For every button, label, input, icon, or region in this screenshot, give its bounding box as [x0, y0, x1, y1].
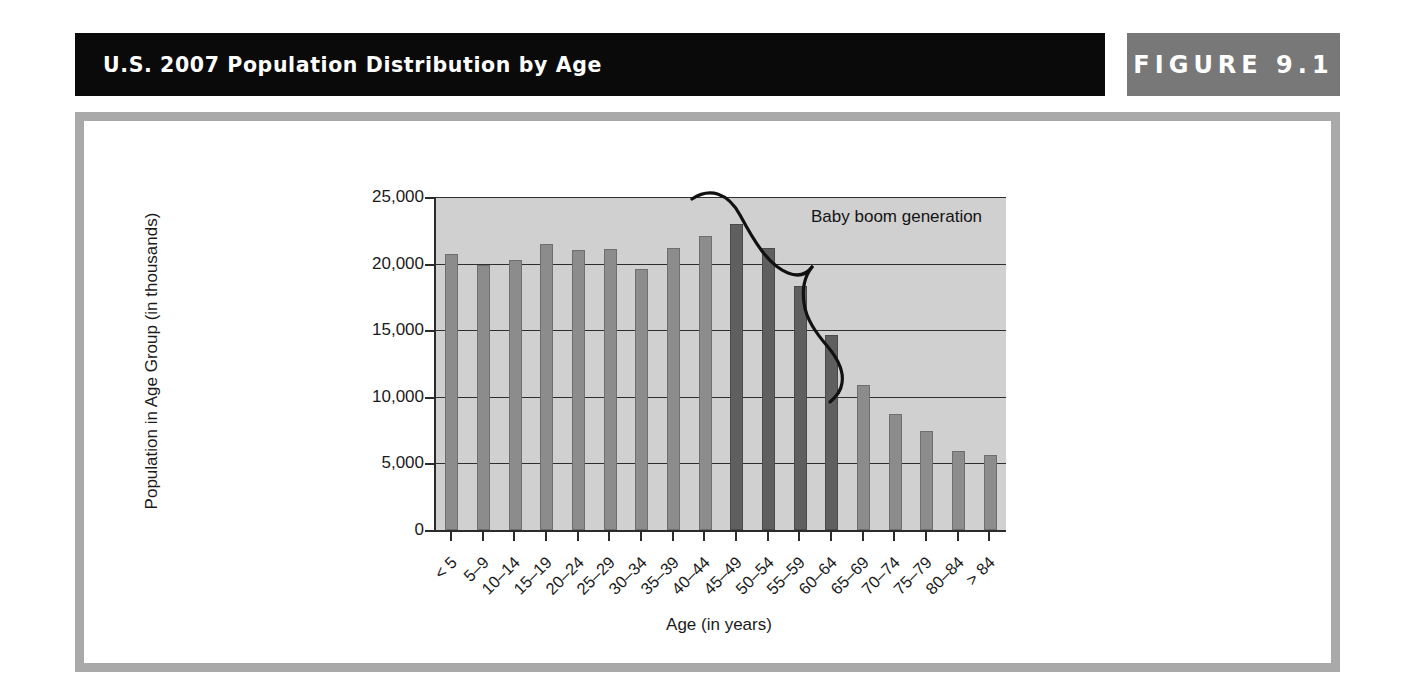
- bar-slot: [974, 197, 1006, 530]
- bar-slot: [436, 197, 468, 530]
- header-spacer: [1105, 33, 1127, 96]
- x-tick-mark: [893, 532, 895, 541]
- x-tick-mark: [513, 532, 515, 541]
- figure-title-bar: U.S. 2007 Population Distribution by Age: [75, 33, 1105, 96]
- bar-slot: [626, 197, 658, 530]
- y-tick-mark: [425, 264, 434, 266]
- y-tick-mark: [425, 463, 434, 465]
- bar-slot: [911, 197, 943, 530]
- bar-35-39[interactable]: [667, 248, 680, 530]
- x-tick-mark: [577, 532, 579, 541]
- page-title: U.S. 2007 Population Distribution by Age: [103, 53, 602, 77]
- bar-10-14[interactable]: [509, 260, 522, 530]
- bar-70-74[interactable]: [889, 414, 902, 530]
- figure-number-label: FIGURE 9.1: [1133, 51, 1333, 79]
- x-tick-mark: [988, 532, 990, 541]
- x-tick-mark: [482, 532, 484, 541]
- bar-30-34[interactable]: [635, 269, 648, 530]
- bar-slot: [721, 197, 753, 530]
- bar-75-79[interactable]: [920, 431, 933, 530]
- x-tick-mark: [672, 532, 674, 541]
- x-tick-mark: [640, 532, 642, 541]
- bar-5[interactable]: [445, 254, 458, 530]
- x-tick-mark: [735, 532, 737, 541]
- x-tick-mark: [798, 532, 800, 541]
- bar-series: [436, 197, 1006, 530]
- x-tick-mark: [862, 532, 864, 541]
- bar-50-54[interactable]: [762, 248, 775, 530]
- bar-slot: [531, 197, 563, 530]
- y-tick-mark: [425, 197, 434, 199]
- y-tick-mark: [425, 530, 434, 532]
- y-tick-label: 20,000: [340, 254, 424, 274]
- x-tick-mark: [767, 532, 769, 541]
- bar-slot: [879, 197, 911, 530]
- bar-slot: [848, 197, 880, 530]
- y-tick-label: 25,000: [340, 187, 424, 207]
- bar-slot: [753, 197, 785, 530]
- x-tick-mark: [957, 532, 959, 541]
- bar-60-64[interactable]: [825, 335, 838, 530]
- figure-frame: Population in Age Group (in thousands) 0…: [75, 112, 1340, 672]
- x-tick-mark: [608, 532, 610, 541]
- baby-boom-annotation-label: Baby boom generation: [811, 207, 982, 227]
- figure-number-tab: FIGURE 9.1: [1127, 33, 1340, 96]
- bar-55-59[interactable]: [794, 286, 807, 530]
- bar-65-69[interactable]: [857, 385, 870, 530]
- y-axis-title: Population in Age Group (in thousands): [142, 196, 162, 526]
- x-axis-title: Age (in years): [434, 615, 1004, 635]
- bar-25-29[interactable]: [604, 249, 617, 530]
- bar-20-24[interactable]: [572, 250, 585, 530]
- y-tick-label: 15,000: [340, 320, 424, 340]
- bar-5-9[interactable]: [477, 265, 490, 530]
- x-tick-mark: [450, 532, 452, 541]
- bar-slot: [816, 197, 848, 530]
- bar-40-44[interactable]: [699, 236, 712, 530]
- bar-slot: [943, 197, 975, 530]
- bar-chart: Population in Age Group (in thousands) 0…: [84, 121, 1349, 681]
- bar-84[interactable]: [984, 455, 997, 530]
- y-tick-label: 10,000: [340, 387, 424, 407]
- figure-header: U.S. 2007 Population Distribution by Age…: [75, 33, 1340, 96]
- bar-slot: [563, 197, 595, 530]
- bar-slot: [499, 197, 531, 530]
- bar-45-49[interactable]: [730, 224, 743, 530]
- x-tick-mark: [545, 532, 547, 541]
- y-tick-label: 0: [340, 520, 424, 540]
- bar-slot: [689, 197, 721, 530]
- plot-area: [434, 197, 1006, 532]
- y-tick-mark: [425, 330, 434, 332]
- x-tick-mark: [703, 532, 705, 541]
- bar-slot: [784, 197, 816, 530]
- bar-slot: [594, 197, 626, 530]
- x-tick-mark: [830, 532, 832, 541]
- bar-15-19[interactable]: [540, 244, 553, 530]
- bar-80-84[interactable]: [952, 451, 965, 530]
- bar-slot: [468, 197, 500, 530]
- y-tick-label: 5,000: [340, 453, 424, 473]
- bar-slot: [658, 197, 690, 530]
- y-tick-mark: [425, 397, 434, 399]
- x-tick-mark: [925, 532, 927, 541]
